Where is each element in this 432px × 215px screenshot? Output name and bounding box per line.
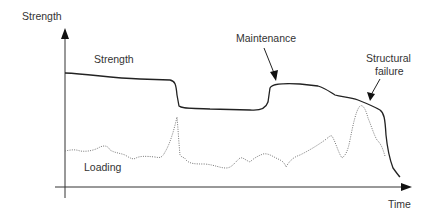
structural-failure-label-line1: Structural (366, 52, 411, 64)
loading-curve-label: Loading (84, 161, 122, 173)
x-axis-arrow-icon (401, 183, 412, 191)
failure-arrow (371, 79, 380, 95)
y-axis: Strength (22, 10, 69, 198)
failure-arrow-icon (367, 92, 375, 101)
y-axis-label: Strength (22, 10, 62, 22)
maintenance-arrow (264, 48, 274, 73)
x-axis-label: Time (388, 198, 411, 210)
structural-failure-label-line2: failure (375, 65, 404, 77)
maintenance-label: Maintenance (236, 32, 296, 44)
loading-curve (65, 106, 385, 168)
maintenance-arrow-icon (270, 70, 278, 81)
x-axis: Time (55, 183, 412, 210)
y-axis-arrow-icon (61, 28, 69, 39)
strength-loading-diagram: Strength Time Strength Loading Maintenan… (0, 0, 432, 215)
strength-curve-label: Strength (94, 53, 134, 65)
